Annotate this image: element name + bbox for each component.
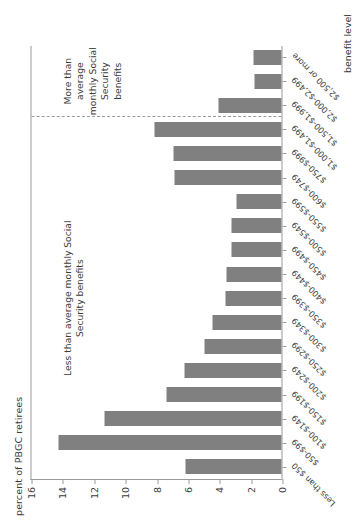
bar	[104, 411, 281, 426]
rotated-figure-wrapper: percent of PBGC retirees benefit level 0…	[0, 0, 361, 532]
category-axis-tick	[282, 395, 286, 396]
category-axis-tick	[282, 57, 286, 58]
category-axis-tick	[282, 322, 286, 323]
category-axis-tick	[282, 467, 286, 468]
y-axis-tick	[94, 479, 95, 484]
more-than-average-annotation: More than average monthly Social Securit…	[61, 45, 123, 117]
bar	[254, 74, 281, 89]
y-axis-tick	[31, 479, 32, 484]
y-axis-tick	[125, 479, 126, 484]
category-axis-tick	[282, 202, 286, 203]
bar	[212, 315, 281, 330]
y-axis-tick	[219, 479, 220, 484]
y-axis-tick-label: 10	[120, 487, 131, 499]
y-axis-tick-label: 8	[151, 487, 162, 493]
y-axis-tick-label: 14	[57, 487, 68, 499]
bar	[184, 363, 281, 378]
bar	[58, 435, 281, 450]
bar-chart-figure: percent of PBGC retirees benefit level 0…	[0, 0, 361, 532]
bar	[173, 146, 281, 161]
category-axis-tick	[282, 419, 286, 420]
bar	[204, 339, 281, 354]
category-axis-tick	[282, 178, 286, 179]
y-axis-title: percent of PBGC retirees	[12, 397, 23, 516]
category-axis-tick	[282, 81, 286, 82]
bar	[231, 242, 281, 257]
y-axis-tick-label: 2	[245, 487, 256, 493]
bar	[236, 194, 281, 209]
category-axis-tick	[282, 250, 286, 251]
category-axis-tick	[282, 105, 286, 106]
category-axis-tick	[282, 274, 286, 275]
y-axis-tick	[188, 479, 189, 484]
bar	[154, 122, 281, 137]
category-axis-tick	[282, 346, 286, 347]
y-axis-tick	[251, 479, 252, 484]
plot-area: 0246810121416 Less than average monthly …	[30, 46, 281, 480]
category-axis-line: Less than $50$50-$99$100-$149$150-$199$2…	[281, 46, 282, 480]
bar	[185, 459, 281, 474]
y-axis-tick-label: 16	[26, 487, 37, 499]
y-axis-tick	[157, 479, 158, 484]
bar	[231, 218, 281, 233]
bar	[225, 291, 281, 306]
y-axis-tick	[62, 479, 63, 484]
x-axis-title: benefit level	[341, 14, 352, 73]
category-axis-tick	[282, 371, 286, 372]
y-axis-tick-label: 0	[277, 487, 288, 493]
bar	[226, 267, 281, 282]
category-axis-tick	[282, 298, 286, 299]
y-axis-tick-label: 4	[214, 487, 225, 493]
category-axis-tick	[282, 129, 286, 130]
category-axis-tick	[282, 154, 286, 155]
bar	[166, 387, 281, 402]
less-than-average-annotation: Less than average monthly Social Securit…	[61, 117, 86, 479]
y-axis-tick-label: 12	[88, 487, 99, 499]
y-axis-tick-label: 6	[182, 487, 193, 493]
category-axis-tick	[282, 226, 286, 227]
bar	[218, 98, 281, 113]
bar	[253, 50, 281, 65]
category-axis-tick	[282, 443, 286, 444]
bar	[174, 170, 281, 185]
